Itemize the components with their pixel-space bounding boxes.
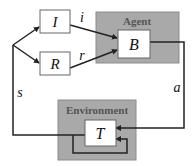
input-label: I bbox=[52, 14, 59, 30]
edge-s-to-R bbox=[13, 45, 39, 63]
input-box: I bbox=[40, 10, 70, 33]
edge-r-label: r bbox=[79, 48, 85, 63]
edge-s-label: s bbox=[17, 85, 23, 100]
behavior-label: B bbox=[129, 36, 139, 53]
environment-title: Environment bbox=[66, 104, 128, 116]
edge-a-label: a bbox=[174, 80, 181, 95]
rl-diagram: Agent Environment I R B T i r a s bbox=[0, 0, 195, 166]
agent-title: Agent bbox=[123, 15, 151, 27]
transition-box: T bbox=[85, 120, 116, 146]
reinforcement-label: R bbox=[49, 56, 59, 72]
edge-i-label: i bbox=[80, 10, 84, 25]
reinforcement-box: R bbox=[40, 52, 70, 75]
behavior-box: B bbox=[118, 30, 150, 58]
edge-s-to-I bbox=[13, 27, 39, 45]
transition-label: T bbox=[96, 125, 106, 142]
